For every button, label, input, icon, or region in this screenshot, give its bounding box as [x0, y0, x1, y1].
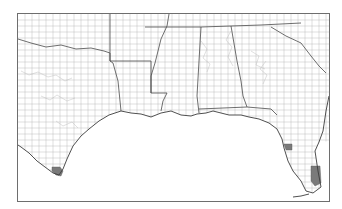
highlight-county-florida-west[interactable]: [284, 144, 292, 150]
county-map: [18, 14, 330, 202]
county-lines: [18, 14, 330, 202]
highlight-county-florida-southeast[interactable]: [311, 166, 321, 186]
map-frame: Southern US county map (Texas to Florida…: [17, 13, 330, 202]
highlighted-counties: [52, 144, 321, 186]
gulf-coastline: [18, 96, 329, 193]
florida-keys: [293, 194, 309, 197]
